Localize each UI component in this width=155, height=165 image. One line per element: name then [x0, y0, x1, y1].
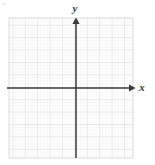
scan-artifacts: [2, 2, 5, 5]
scan-speck-artifact: [2, 2, 5, 5]
graph-canvas: y x: [0, 0, 155, 165]
coordinate-grid-figure: y x: [0, 0, 155, 165]
y-axis-label: y: [71, 2, 78, 14]
x-axis-label: x: [138, 81, 145, 93]
